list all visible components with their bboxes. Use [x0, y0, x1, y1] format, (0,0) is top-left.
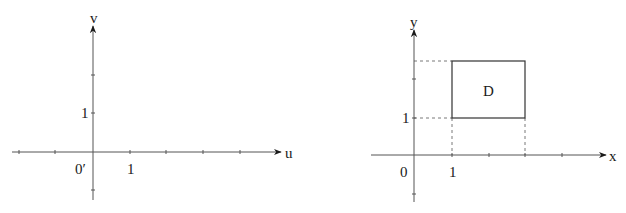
origin-label: 0	[400, 164, 408, 180]
x-axis-label: x	[609, 148, 617, 164]
y-tick-label: 1	[402, 110, 410, 126]
xy-plane: D x y 0 1 1	[371, 14, 617, 202]
uv-plane: u v 0′ 1 1	[12, 10, 293, 200]
v-tick-label: 1	[81, 105, 89, 121]
u-axis-label: u	[285, 145, 293, 161]
y-axis-label: y	[410, 14, 418, 30]
origin-label: 0′	[75, 161, 86, 177]
v-axis-label: v	[90, 10, 98, 26]
x-tick-label: 1	[449, 164, 457, 180]
diagram-canvas: u v 0′ 1 1 D x y 0 1 1	[0, 0, 626, 213]
region-label: D	[483, 83, 494, 99]
u-tick-label: 1	[127, 161, 135, 177]
guide-lines	[414, 61, 525, 155]
